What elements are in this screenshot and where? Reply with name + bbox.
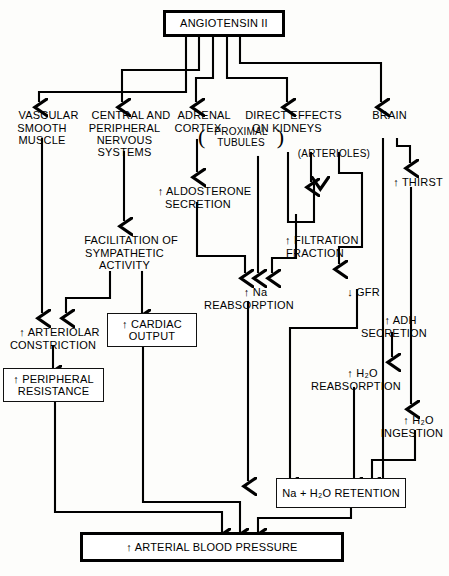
node-arterial-blood-pressure[interactable]: ↑ ARTERIAL BLOOD PRESSURE: [80, 532, 344, 562]
node-na-reabsorption-label: ↑ Na REABSORPTION: [204, 286, 294, 310]
node-na-reabsorption: ↑ Na REABSORPTION: [203, 274, 295, 323]
node-h2o-ingestion-label: ↑ H₂O INGESTION: [381, 414, 443, 438]
node-angiotensin-ii[interactable]: ANGIOTENSIN II: [163, 10, 285, 37]
edge-angiotensin-brain: [240, 38, 381, 101]
node-nervous-systems-label: CENTRAL AND PERIPHERAL NERVOUS SYSTEMS: [89, 109, 171, 158]
node-cardiac-output-label: ↑ CARDIAC OUTPUT: [122, 318, 182, 343]
node-proximal-tubules: ( PROXIMAL TUBULES ): [198, 126, 284, 148]
node-peripheral-resistance[interactable]: ↑ PERIPHERAL RESISTANCE: [3, 368, 104, 402]
node-brain-label: BRAIN: [372, 109, 407, 121]
node-proximal-tubules-label: PROXIMAL TUBULES: [205, 126, 276, 148]
node-adh-secretion: ↑ ADH SECRETION: [352, 302, 436, 351]
node-arterial-blood-pressure-label: ↑ ARTERIAL BLOOD PRESSURE: [126, 541, 297, 553]
node-thirst-label: ↑ THIRST: [393, 176, 443, 188]
node-arteriolar-constriction: ↑ ARTERIOLAR CONSTRICTION: [0, 314, 106, 363]
node-na-h2o-retention-label: Na + H₂O RETENTION: [282, 487, 400, 499]
node-nervous-systems: CENTRAL AND PERIPHERAL NERVOUS SYSTEMS: [71, 97, 178, 171]
edge-peripheral-bp: [55, 401, 222, 531]
node-aldosterone-secretion: ↑ ALDOSTERONE SECRETION: [136, 173, 260, 222]
node-arterioles-label: (ARTERIOLES): [298, 148, 370, 159]
node-arteriolar-constriction-label: ↑ ARTERIOLAR CONSTRICTION: [10, 326, 100, 350]
node-na-h2o-retention[interactable]: Na + H₂O RETENTION: [276, 478, 406, 508]
node-aldosterone-secretion-label: ↑ ALDOSTERONE SECRETION: [158, 185, 252, 209]
node-thirst: ↑ THIRST: [379, 164, 444, 201]
edge-cardiac-bp: [143, 347, 240, 531]
edge-retention-bp: [258, 508, 351, 531]
node-peripheral-resistance-label: ↑ PERIPHERAL RESISTANCE: [13, 373, 94, 398]
edge-angiotensin-kidneys: [227, 38, 287, 101]
node-facilitation-sympathetic: FACILITATION OF SYMPATHETIC ACTIVITY: [68, 222, 181, 284]
paren-open-glyph: (: [198, 126, 205, 148]
node-angiotensin-ii-label: ANGIOTENSIN II: [180, 17, 268, 29]
paren-close-glyph: ): [277, 126, 284, 148]
node-gfr-label: ↓ GFR: [347, 286, 380, 298]
edge-brain-thirst: [397, 139, 410, 162]
node-cardiac-output[interactable]: ↑ CARDIAC OUTPUT: [107, 313, 197, 347]
node-facilitation-sympathetic-label: FACILITATION OF SYMPATHETIC ACTIVITY: [84, 234, 178, 271]
node-h2o-ingestion: ↑ H₂O INGESTION: [375, 402, 449, 451]
node-vascular-smooth-muscle-label: VASCULAR SMOOTH MUSCLE: [17, 109, 78, 146]
node-arterioles: (ARTERIOLES): [284, 137, 372, 171]
node-h2o-reabsorption: ↑ H₂O REABSORPTION: [310, 355, 402, 404]
node-brain: BRAIN: [356, 97, 410, 134]
node-filtration-fraction: ↑ FILTRATION FRACTION: [272, 222, 358, 271]
diagram-canvas: ANGIOTENSIN II VASCULAR SMOOTH MUSCLE CE…: [0, 0, 449, 576]
node-filtration-fraction-label: ↑ FILTRATION FRACTION: [285, 234, 359, 258]
node-adh-secretion-label: ↑ ADH SECRETION: [361, 314, 427, 338]
node-h2o-reabsorption-label: ↑ H₂O REABSORPTION: [311, 367, 401, 391]
